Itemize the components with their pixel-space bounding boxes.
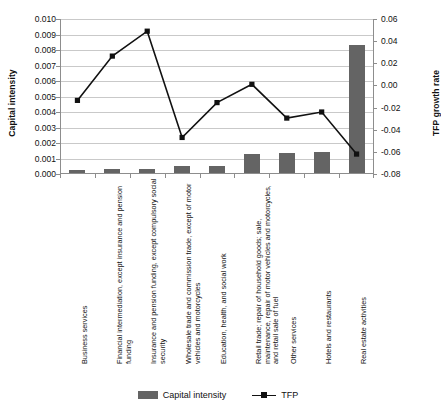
legend-label-capital-intensity: Capital intensity	[163, 390, 227, 400]
y-tick-label-left: 0.002	[22, 139, 56, 148]
y-tick-label-left: 0.008	[22, 46, 56, 55]
legend-item-tfp: TFP	[252, 390, 298, 400]
x-axis-category-label: Insurance and pension funding, except co…	[150, 176, 167, 364]
tfp-data-point-marker	[284, 115, 289, 120]
tfp-line-path	[77, 31, 356, 154]
y-tick-label-left: 0.000	[22, 170, 56, 179]
y-tick-label-left: 0.009	[22, 31, 56, 40]
x-axis-category-label: Hotels and restaurants	[325, 176, 334, 364]
chart-legend: Capital intensity TFP	[0, 390, 436, 400]
legend-swatch-line-icon	[252, 391, 276, 399]
x-axis-category-label: Business services	[81, 176, 90, 364]
tfp-data-point-marker	[145, 29, 150, 34]
x-axis-category-label: Education, health, and social work	[220, 176, 229, 364]
y-tick-label-right: 0.02	[381, 59, 415, 68]
y-tick-label-left: 0.007	[22, 62, 56, 71]
x-axis-category-label: Other services	[290, 176, 299, 364]
y-axis-right-title: TFP growth rate	[431, 53, 441, 153]
tfp-data-point-marker	[75, 98, 80, 103]
x-axis-line	[60, 173, 374, 174]
y-tick-label-right: -0.02	[381, 104, 415, 113]
y-axis-left-title: Capital intensity	[7, 53, 17, 153]
y-tick-label-right: 0.00	[381, 81, 415, 90]
y-tick-label-right: 0.04	[381, 37, 415, 46]
y-tick-label-left: 0.006	[22, 77, 56, 86]
line-series	[60, 19, 374, 174]
x-axis-category-label: Financial intermediation, except insuran…	[116, 176, 133, 364]
tfp-data-point-marker	[110, 53, 115, 58]
tfp-data-point-marker	[214, 100, 219, 105]
plot-area	[60, 19, 374, 174]
y-tick-label-right: 0.06	[381, 15, 415, 24]
x-axis-category-label: Wholesale trade and commission trade, ex…	[185, 176, 202, 364]
tfp-data-point-marker	[249, 82, 254, 87]
y-tick-label-left: 0.010	[22, 15, 56, 24]
legend-label-tfp: TFP	[281, 390, 298, 400]
legend-swatch-bar-icon	[138, 391, 158, 399]
tfp-data-point-marker	[354, 151, 359, 156]
x-axis-category-label: Retail trade; repair of household goods;…	[255, 176, 281, 364]
y-tick-label-left: 0.004	[22, 108, 56, 117]
y-tick-label-left: 0.003	[22, 124, 56, 133]
y-tick-label-left: 0.001	[22, 155, 56, 164]
y-tick-label-right: -0.04	[381, 126, 415, 135]
y-tick-label-right: -0.06	[381, 148, 415, 157]
x-axis-category-labels: Business servicesFinancial intermediatio…	[60, 176, 374, 376]
y-tick-label-right: -0.08	[381, 170, 415, 179]
tfp-data-point-marker	[180, 135, 185, 140]
y-tick-label-left: 0.005	[22, 93, 56, 102]
legend-item-capital-intensity: Capital intensity	[138, 390, 227, 400]
tfp-data-point-marker	[319, 109, 324, 114]
x-axis-category-label: Real estate activities	[360, 176, 369, 364]
